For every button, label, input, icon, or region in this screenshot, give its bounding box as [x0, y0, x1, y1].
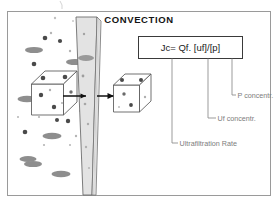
- convection-diagram: CONVECTION Jc= Qf. [uf]/[p] P concentr. …: [0, 0, 278, 204]
- label-uf-concentr: Uf concentr.: [218, 114, 256, 123]
- page-title: CONVECTION: [104, 14, 173, 25]
- stray-mark: [60, 1, 62, 9]
- label-ultrafiltration-rate: Ultrafiltration Rate: [180, 139, 238, 148]
- formula-text: Jc= Qf. [uf]/[p]: [161, 42, 220, 53]
- label-p-concentr: P concentr.: [238, 91, 274, 100]
- diagram-canvas: CONVECTION Jc= Qf. [uf]/[p] P concentr. …: [0, 0, 278, 204]
